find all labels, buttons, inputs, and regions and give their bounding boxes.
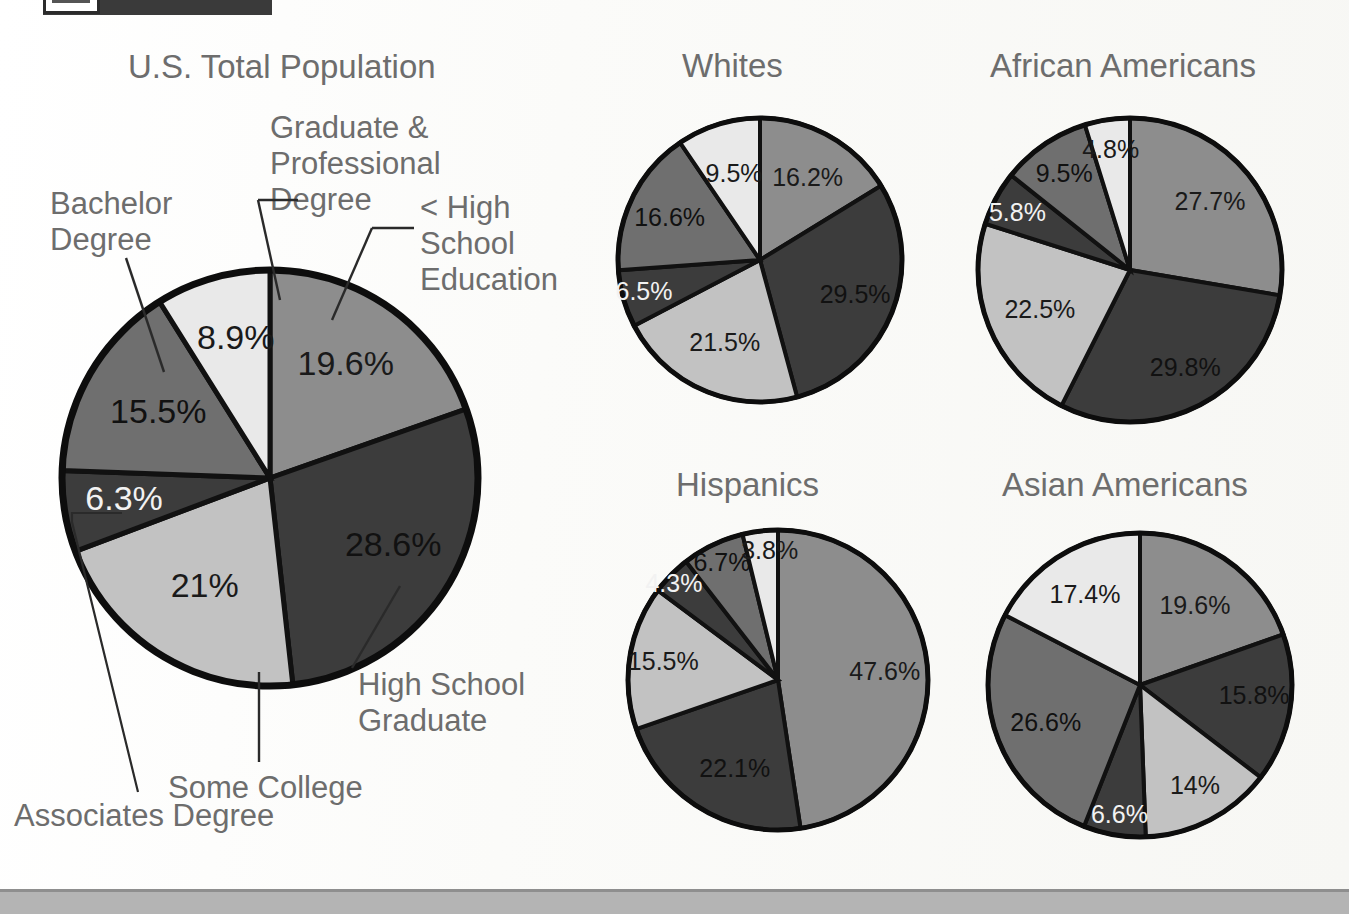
pie-slice-value-label: 26.6%: [1010, 708, 1081, 736]
pie-slice-value-label: 22.1%: [699, 754, 770, 782]
pie-slice-value-label: 47.6%: [849, 657, 920, 685]
pie-slice-value-label: 17.4%: [1050, 580, 1121, 608]
footer-strip: [0, 892, 1349, 914]
pie-slice-value-label: 5.8%: [989, 198, 1046, 226]
pie-slice-value-label: 4.8%: [1082, 135, 1139, 163]
pie-slice-value-label: 27.7%: [1175, 187, 1246, 215]
pie-chart-whites: 16.2%29.5%21.5%6.5%16.6%9.5%: [600, 60, 960, 440]
pie-slice-value-label: 16.6%: [634, 203, 705, 231]
pie-slice-value-label: 6.5%: [616, 277, 673, 305]
pie-chart-african-americans: 27.7%29.8%22.5%5.8%9.5%4.8%: [930, 60, 1330, 460]
pie-slice-value-label: 14%: [1170, 771, 1220, 799]
pie-slice-value-label: 9.5%: [706, 159, 763, 187]
pie-slice-value-label: 16.2%: [772, 163, 843, 191]
pie-chart-hispanics: 47.6%22.1%15.5%4.3%6.7%3.8%: [600, 480, 980, 870]
pie-slice-value-label: 15.8%: [1219, 681, 1290, 709]
pie-slice-value-label: 29.8%: [1150, 353, 1221, 381]
pie-slice-value-label: 6.6%: [1091, 800, 1148, 828]
pie-slice-value-label: 3.8%: [741, 536, 798, 564]
pie-slice-value-label: 9.5%: [1036, 159, 1093, 187]
pie-slice-value-label: 19.6%: [1159, 591, 1230, 619]
minus-icon: [52, 0, 90, 3]
pie-slice-value-label: 29.5%: [820, 280, 891, 308]
pie-slice-value-label: 21.5%: [689, 328, 760, 356]
pie-chart-asian-americans: 19.6%15.8%14%6.6%26.6%17.4%: [950, 480, 1349, 880]
pie-slice-value-label: 22.5%: [1004, 295, 1075, 323]
callout-leader-lines-main: [0, 0, 600, 880]
pie-slice-value-label: 15.5%: [628, 647, 699, 675]
